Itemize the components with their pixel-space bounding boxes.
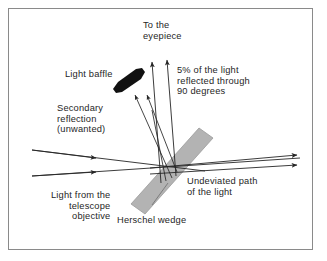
- label-light-from-objective-line1: Light from the: [51, 190, 110, 200]
- label-to-eyepiece-line2: eyepiece: [143, 31, 182, 41]
- light-baffle-shape: [113, 68, 145, 93]
- label-secondary-reflection: Secondary reflection (unwanted): [57, 103, 105, 135]
- label-light-from-objective: Light from the telescope objective: [51, 190, 110, 222]
- label-light-baffle: Light baffle: [65, 69, 113, 80]
- label-herschel-wedge: Herschel wedge: [117, 215, 186, 226]
- label-to-eyepiece: To the eyepiece: [143, 20, 182, 41]
- label-undeviated-path-line2: of the light: [187, 187, 232, 197]
- figure-root: To the eyepiece 5% of the light reflecte…: [0, 0, 327, 261]
- label-to-eyepiece-line1: To the: [143, 20, 169, 30]
- label-secondary-reflection-line2: reflection: [57, 114, 97, 124]
- label-five-percent-line2: reflected through: [177, 76, 250, 86]
- label-light-from-objective-line2: telescope: [69, 201, 110, 211]
- label-five-percent-line1: 5% of the light: [177, 65, 239, 75]
- label-five-percent: 5% of the light reflected through 90 deg…: [177, 65, 250, 97]
- label-undeviated-path-line1: Undeviated path: [187, 176, 258, 186]
- label-secondary-reflection-line1: Secondary: [57, 103, 103, 113]
- label-undeviated-path: Undeviated path of the light: [187, 176, 258, 197]
- label-light-from-objective-line3: objective: [72, 211, 110, 221]
- label-secondary-reflection-line3: (unwanted): [57, 124, 105, 134]
- label-five-percent-line3: 90 degrees: [177, 86, 225, 96]
